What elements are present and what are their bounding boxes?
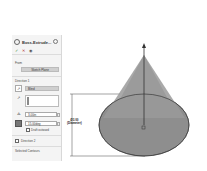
feature-title: Boss-Extrude... <box>14 38 60 46</box>
divider <box>12 146 61 147</box>
cancel-button[interactable]: ✕ <box>22 48 25 53</box>
draft-angle-value: 15.00deg <box>28 122 41 126</box>
draft-outward-label: Draft outward <box>31 128 49 132</box>
property-manager-panel: Boss-Extrude... ✓ ✕ ◉ From Sketch Plane … <box>12 35 62 161</box>
direction1-label: Direction 1 <box>15 79 29 83</box>
boss-extrude-icon <box>14 39 20 45</box>
diameter-label: (Diameter) <box>67 122 82 125</box>
reverse-direction-icon[interactable]: ↗ <box>15 85 22 92</box>
graphics-area[interactable] <box>62 35 207 165</box>
depth-icon: ⟁ <box>15 111 22 118</box>
end-condition-select[interactable]: Blind <box>25 86 59 91</box>
from-label: From <box>15 61 22 65</box>
direction-arrow-head[interactable] <box>142 43 146 48</box>
direction-selection-box[interactable] <box>25 95 59 107</box>
draft-icon[interactable] <box>15 120 22 127</box>
feature-title-text: Boss-Extrude... <box>22 40 51 45</box>
depth-spinner[interactable] <box>57 113 60 117</box>
diameter-dimension[interactable]: Ø3.00 (Diameter) <box>67 119 82 125</box>
depth-value: 3.00in <box>28 113 36 117</box>
depth-input[interactable]: 3.00in <box>25 112 57 117</box>
draft-spinner[interactable] <box>57 122 60 126</box>
help-icon[interactable] <box>53 39 58 44</box>
direction2-checkbox[interactable] <box>15 139 19 143</box>
selected-contours-label: Selected Contours <box>15 149 40 153</box>
divider <box>12 76 61 77</box>
action-buttons: ✓ ✕ ◉ <box>15 48 32 53</box>
selection-bar <box>27 97 29 105</box>
from-select[interactable]: Sketch Plane <box>21 67 59 72</box>
draft-angle-input[interactable]: 15.00deg <box>25 121 57 126</box>
ok-button[interactable]: ✓ <box>15 48 18 53</box>
preview-button[interactable]: ◉ <box>29 48 32 53</box>
direction2-label: Direction 2 <box>21 139 35 143</box>
direction-vector-icon: ↗ <box>15 95 22 102</box>
divider <box>12 54 61 55</box>
draft-outward-checkbox[interactable] <box>26 128 30 132</box>
divider <box>12 135 61 136</box>
